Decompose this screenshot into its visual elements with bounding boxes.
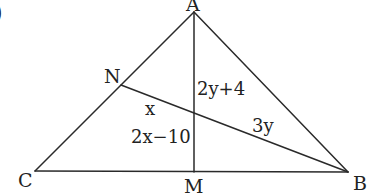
label-intersection-to-B: 3y [252, 115, 274, 136]
corner-label: ) [0, 0, 3, 25]
vertex-label-A: A [185, 0, 200, 15]
label-N-to-intersection: x [145, 98, 155, 119]
vertex-label-C: C [18, 169, 33, 191]
vertex-label-M: M [184, 175, 203, 195]
label-lower-AM: 2x−10 [131, 126, 191, 147]
side-CB [35, 171, 348, 172]
label-upper-AM: 2y+4 [197, 78, 245, 99]
triangle-diagram: ) A B C M N 2y+4 x 2x−10 3y [0, 0, 368, 195]
vertex-label-B: B [353, 172, 367, 194]
side-AC [35, 12, 194, 171]
vertex-label-N: N [104, 65, 121, 87]
